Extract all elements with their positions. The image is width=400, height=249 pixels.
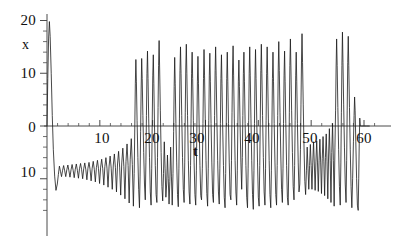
y-axis-ticks: [40, 21, 47, 211]
x-tick-label-20: 20: [140, 130, 164, 147]
y-tick-label-10: 10: [4, 65, 36, 82]
x-tick-label-60: 60: [352, 130, 376, 147]
series-line-0: [47, 22, 369, 211]
x-axis-ticks: [58, 120, 375, 126]
x-axis-title: t: [193, 144, 198, 160]
y-axis-title: x: [22, 37, 29, 53]
y-tick-label-20: 20: [4, 12, 36, 29]
y-tick-label-0: 0: [4, 119, 36, 136]
x-tick-label-40: 40: [240, 130, 264, 147]
chart-figure: 20 10 0 10 x 10 20 30 40 50 60 t: [0, 0, 400, 249]
x-tick-label-50: 50: [298, 130, 322, 147]
data-series-group: [47, 22, 369, 211]
axis-lines: [44, 14, 391, 236]
plot-canvas: [0, 0, 400, 249]
x-tick-label-10: 10: [90, 130, 114, 147]
y-tick-label-neg10: 10: [4, 164, 36, 181]
